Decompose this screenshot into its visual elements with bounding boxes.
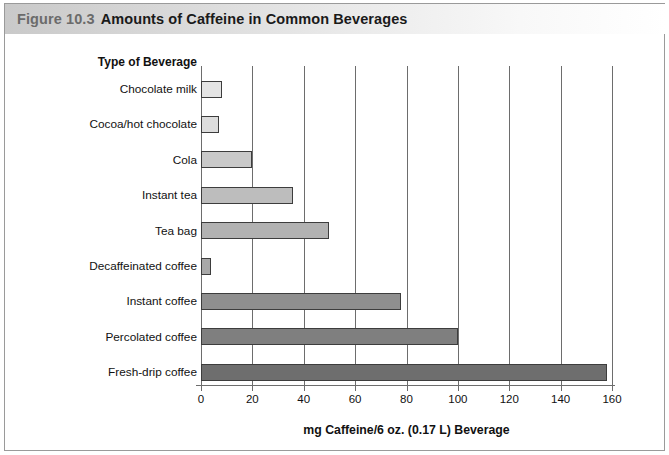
category-label-instant-coffee: Instant coffee [17, 294, 197, 308]
category-label-chocolate-milk: Chocolate milk [17, 82, 197, 96]
figure-frame: Figure 10.3 Amounts of Caffeine in Commo… [4, 3, 665, 451]
gridline-140 [561, 66, 562, 385]
bar-percolated-coffee [201, 328, 458, 345]
x-tick-0 [201, 386, 202, 391]
x-tick-label-20: 20 [246, 393, 259, 405]
category-label-cocoa-hot-chocolate: Cocoa/hot chocolate [17, 117, 197, 131]
x-tick-160 [612, 386, 613, 391]
bar-tea-bag [201, 222, 329, 239]
x-tick-label-100: 100 [448, 393, 467, 405]
bar-cola [201, 151, 252, 168]
x-tick-label-0: 0 [198, 393, 204, 405]
x-tick-label-120: 120 [500, 393, 519, 405]
x-tick-80 [407, 386, 408, 391]
gridline-100 [458, 66, 459, 385]
x-tick-20 [252, 386, 253, 391]
bar-instant-tea [201, 187, 293, 204]
category-label-tea-bag: Tea bag [17, 224, 197, 238]
category-label-percolated-coffee: Percolated coffee [17, 330, 197, 344]
bar-cocoa-hot-chocolate [201, 116, 219, 133]
bar-decaffeinated-coffee [201, 258, 211, 275]
gridline-160 [612, 66, 613, 385]
bar-chocolate-milk [201, 81, 222, 98]
x-tick-120 [509, 386, 510, 391]
category-label-instant-tea: Instant tea [17, 188, 197, 202]
x-tick-60 [355, 386, 356, 391]
bar-instant-coffee [201, 293, 401, 310]
figure-container: Figure 10.3 Amounts of Caffeine in Commo… [0, 0, 669, 455]
x-axis-title: mg Caffeine/6 oz. (0.17 L) Beverage [201, 423, 612, 437]
y-axis-title: Type of Beverage [17, 55, 197, 69]
x-tick-label-160: 160 [602, 393, 621, 405]
bar-fresh-drip-coffee [201, 364, 607, 381]
x-tick-label-140: 140 [551, 393, 570, 405]
category-label-cola: Cola [17, 153, 197, 167]
x-tick-label-40: 40 [297, 393, 310, 405]
category-label-decaffeinated-coffee: Decaffeinated coffee [17, 259, 197, 273]
x-tick-label-60: 60 [349, 393, 362, 405]
category-label-fresh-drip-coffee: Fresh-drip coffee [17, 365, 197, 379]
x-tick-label-80: 80 [400, 393, 413, 405]
gridline-120 [509, 66, 510, 385]
category-label-column: Type of Beverage Chocolate milkCocoa/hot… [11, 4, 197, 455]
x-axis-line [196, 385, 615, 386]
x-tick-100 [458, 386, 459, 391]
x-tick-140 [561, 386, 562, 391]
x-tick-40 [304, 386, 305, 391]
plot-area: 020406080100120140160 [201, 66, 612, 385]
